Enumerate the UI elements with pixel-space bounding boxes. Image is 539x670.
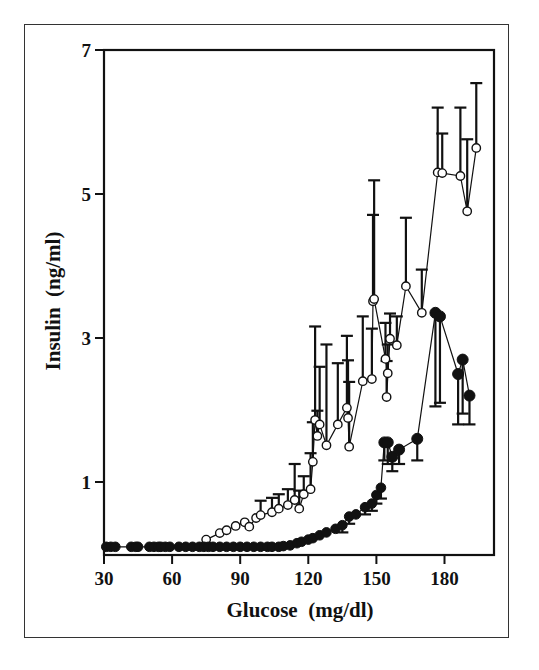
y-tick-label: 5 xyxy=(82,184,92,205)
filled-circle-marker xyxy=(338,520,348,530)
y-tick-label: 1 xyxy=(82,472,92,493)
x-tick-label: 150 xyxy=(362,568,391,589)
open-circle-marker xyxy=(370,295,378,303)
open-circle-marker xyxy=(402,282,410,290)
filled-circle-marker xyxy=(382,437,393,448)
open-circle-marker xyxy=(290,496,298,504)
filled-circle-marker xyxy=(434,311,445,322)
filled-circle-marker xyxy=(111,542,121,552)
open-circle-marker xyxy=(306,485,314,493)
open-circle-marker xyxy=(343,404,351,412)
filled-circle-marker xyxy=(376,483,386,493)
open-circle-marker xyxy=(438,169,446,177)
open-circle-marker xyxy=(359,377,367,385)
x-axis-title: Glucose (mg/dl) xyxy=(227,598,374,622)
x-axis: 306090120150180 xyxy=(95,555,459,589)
open-circle-marker xyxy=(256,511,264,519)
filled-circle-marker xyxy=(367,499,377,509)
open-circle-marker xyxy=(382,393,390,401)
open-circle-marker xyxy=(222,526,230,534)
series-line xyxy=(106,313,469,547)
open-circle-marker xyxy=(393,341,401,349)
filled-circle-marker xyxy=(351,510,361,520)
open-circle-marker xyxy=(313,432,321,440)
open-circle-marker xyxy=(386,335,394,343)
x-tick-label: 120 xyxy=(294,568,323,589)
open-circle-marker xyxy=(322,441,330,449)
open-circle-marker xyxy=(245,522,253,530)
series-filled-circles xyxy=(101,307,475,551)
open-circle-marker xyxy=(275,504,283,512)
filled-circle-marker xyxy=(457,354,468,365)
filled-circle-marker xyxy=(412,433,423,444)
filled-circle-marker xyxy=(464,390,475,401)
open-circle-marker xyxy=(231,522,239,530)
y-tick-label: 3 xyxy=(82,328,92,349)
open-circle-marker xyxy=(472,144,480,152)
open-circle-marker xyxy=(309,458,317,466)
chart: 306090120150180 1357 Glucose (mg/dl) Ins… xyxy=(0,0,539,670)
filled-circle-marker xyxy=(322,528,332,538)
filled-circle-marker xyxy=(453,369,464,380)
y-axis: 1357 xyxy=(82,40,105,493)
open-circle-marker xyxy=(315,420,323,428)
filled-circle-marker xyxy=(133,542,143,552)
open-circle-marker xyxy=(418,309,426,317)
open-circle-marker xyxy=(334,420,342,428)
y-axis-title: Insulin (ng/ml) xyxy=(41,232,65,371)
open-circle-marker xyxy=(381,355,389,363)
filled-circle-marker xyxy=(165,542,175,552)
open-circle-marker xyxy=(463,207,471,215)
open-circle-marker xyxy=(456,172,464,180)
plot-border xyxy=(104,50,494,555)
x-tick-label: 180 xyxy=(430,568,459,589)
y-tick-label: 7 xyxy=(82,40,92,61)
open-circle-marker xyxy=(384,369,392,377)
x-tick-label: 60 xyxy=(163,568,182,589)
open-circle-marker xyxy=(368,375,376,383)
open-circle-marker xyxy=(345,443,353,451)
plot-area xyxy=(101,50,494,555)
open-circle-marker xyxy=(344,414,352,422)
filled-circle-marker xyxy=(394,444,405,455)
x-tick-label: 30 xyxy=(95,568,114,589)
x-tick-label: 90 xyxy=(231,568,250,589)
open-circle-marker xyxy=(295,504,303,512)
